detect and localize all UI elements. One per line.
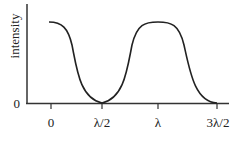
- x-label-lambda: λ: [155, 115, 162, 130]
- x-label-3half-lambda: 3λ/2: [207, 115, 230, 130]
- x-label-half-lambda: λ/2: [94, 115, 110, 130]
- intensity-curve: [49, 22, 217, 103]
- x-label-0: 0: [48, 115, 55, 130]
- y-axis-label: intensity: [7, 13, 22, 58]
- y-zero-label: 0: [14, 96, 21, 111]
- intensity-chart: 0 0 λ/2 λ 3λ/2 intensity: [0, 0, 250, 144]
